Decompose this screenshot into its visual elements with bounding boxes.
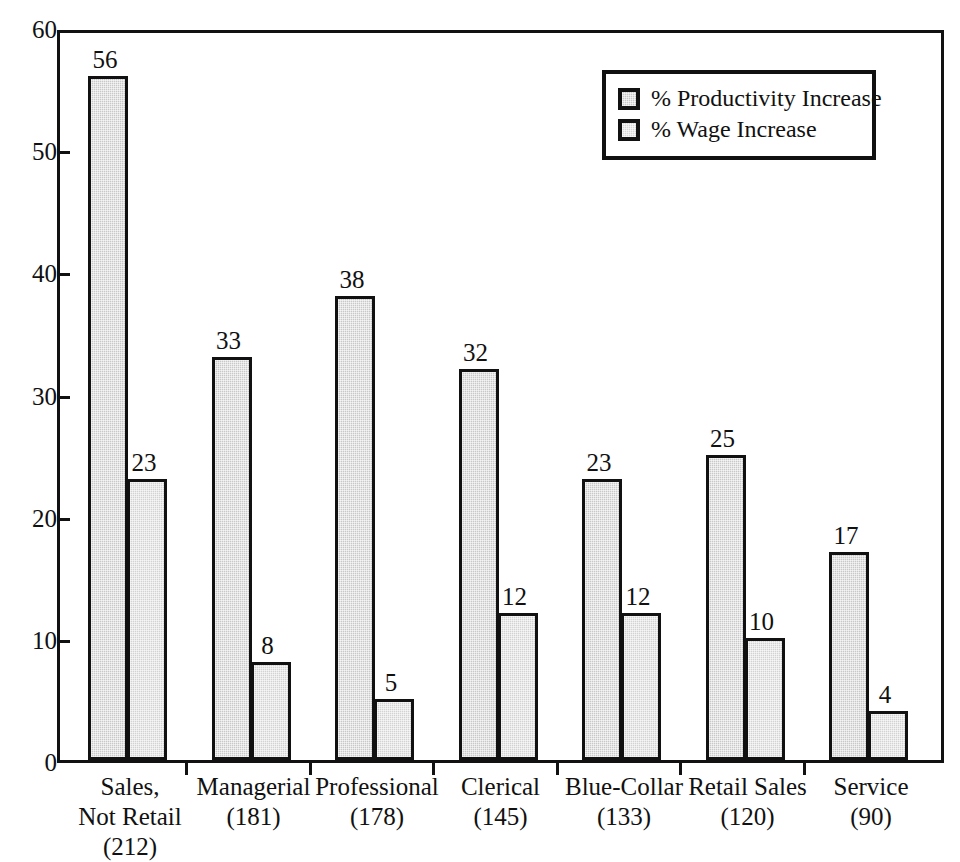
bar-value-label: 12: [600, 584, 676, 610]
legend-swatch-wage-icon: [618, 119, 640, 141]
bar-productivity: [582, 479, 622, 760]
y-tick-label: 10: [13, 628, 57, 653]
y-axis: 0102030405060: [0, 0, 57, 850]
y-tick-label: 20: [13, 506, 57, 531]
bar-productivity: [88, 76, 128, 760]
bar-value-label: 12: [477, 584, 553, 610]
bar-value-label: 5: [353, 670, 429, 696]
bar-wage: [621, 613, 661, 760]
bar-productivity: [829, 552, 869, 760]
y-tick-label: 40: [13, 261, 57, 286]
bar-wage: [868, 711, 908, 760]
bar-value-label: 23: [106, 450, 182, 476]
y-tick-mark: [57, 518, 70, 521]
y-tick-label: 50: [13, 139, 57, 164]
bar-value-label: 32: [438, 340, 514, 366]
bar-value-label: 4: [847, 682, 923, 708]
bar-value-label: 23: [561, 450, 637, 476]
bar-wage: [374, 699, 414, 760]
bar-productivity: [212, 357, 252, 760]
y-tick-mark: [57, 640, 70, 643]
bar-wage: [251, 662, 291, 760]
bar-value-label: 33: [191, 328, 267, 354]
y-tick-label: 60: [13, 17, 57, 42]
chart-legend: % Productivity Increase % Wage Increase: [602, 70, 876, 160]
bar-value-label: 10: [724, 609, 800, 635]
x-axis-group-label: Service (90): [796, 772, 946, 832]
bar-wage: [127, 479, 167, 760]
legend-swatch-productivity-icon: [618, 88, 640, 110]
bar-value-label: 38: [314, 267, 390, 293]
bar-value-label: 56: [67, 47, 143, 73]
y-tick-label: 0: [13, 750, 57, 775]
y-tick-label: 30: [13, 384, 57, 409]
y-tick-mark: [57, 396, 70, 399]
legend-label-wage: % Wage Increase: [651, 117, 817, 142]
bar-productivity: [706, 455, 746, 760]
bar-wage: [745, 638, 785, 760]
y-tick-mark: [57, 273, 70, 276]
legend-item-productivity: % Productivity Increase: [618, 83, 860, 114]
y-tick-mark: [57, 151, 70, 154]
legend-item-wage: % Wage Increase: [618, 114, 860, 145]
bar-wage: [498, 613, 538, 760]
bar-productivity: [459, 369, 499, 760]
bar-value-label: 17: [808, 523, 884, 549]
bar-value-label: 8: [230, 633, 306, 659]
legend-label-productivity: % Productivity Increase: [651, 86, 882, 111]
bar-value-label: 25: [685, 426, 761, 452]
